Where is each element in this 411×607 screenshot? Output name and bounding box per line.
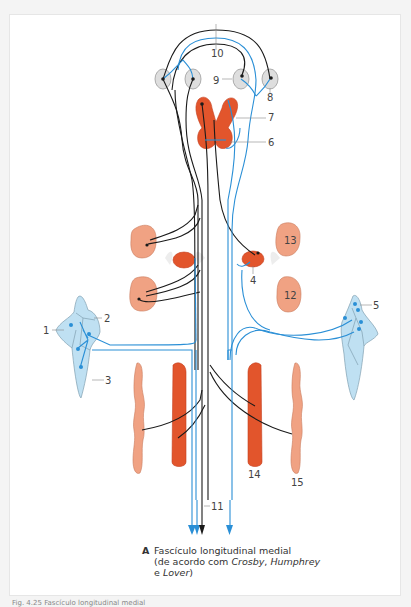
label-7: 7	[268, 113, 274, 123]
figure-footer: Fig. 4.25 Fascículo longitudinal medial	[12, 599, 145, 607]
label-13: 13	[284, 236, 297, 246]
label-14: 14	[248, 470, 261, 480]
label-4: 4	[250, 276, 256, 286]
caption-line-3: e Lover)	[154, 567, 320, 578]
label-1: 1	[43, 326, 49, 336]
caption-line-1: Fascículo longitudinal medial	[154, 545, 320, 556]
label-2: 2	[104, 314, 110, 324]
caption-line-2: (de acordo com Crosby, Humphrey	[154, 556, 320, 567]
label-9: 9	[213, 76, 219, 86]
blue-fibers	[78, 38, 354, 500]
label-3: 3	[105, 376, 111, 386]
caption-text: Fascículo longitudinal medial (de acordo…	[154, 545, 320, 578]
label-12: 12	[284, 291, 297, 301]
label-11: 11	[211, 502, 224, 512]
terminal-dots	[69, 74, 363, 369]
label-8: 8	[267, 93, 273, 103]
leader-lines	[52, 24, 372, 506]
label-5: 5	[373, 301, 379, 311]
label-15: 15	[291, 478, 304, 488]
label-10: 10	[211, 49, 224, 59]
abducens-nuclei	[165, 251, 280, 268]
label-6: 6	[268, 138, 274, 148]
panel-letter: A	[142, 545, 149, 556]
